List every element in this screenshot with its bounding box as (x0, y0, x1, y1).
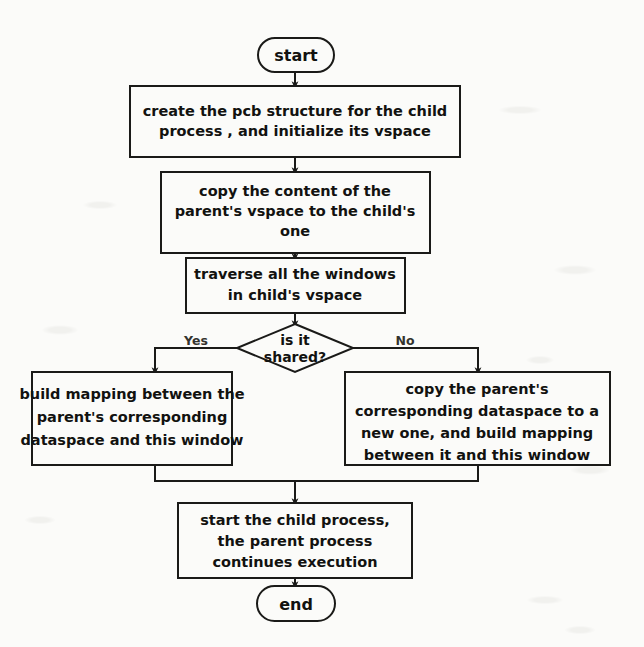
node-start-label: start (274, 46, 318, 65)
node-copy-dataspace-line-1: copy the parent's (405, 381, 548, 397)
node-copy-dataspace: copy the parent's corresponding dataspac… (345, 372, 610, 465)
connector-no-to-copy-dataspace (353, 348, 478, 371)
node-build-mapping-line-2: parent's corresponding (37, 409, 228, 425)
connector-build-mapping-to-merge (155, 465, 295, 481)
node-end: end (257, 586, 335, 621)
node-build-mapping: build mapping between the parent's corre… (19, 372, 244, 465)
node-start-child: start the child process, the parent proc… (178, 503, 412, 578)
node-start: start (258, 38, 334, 72)
node-start-child-line-3: continues execution (212, 554, 377, 570)
node-traverse-windows: traverse all the windows in child's vspa… (186, 258, 405, 313)
node-create-pcb-line-1: create the pcb structure for the child (143, 103, 447, 119)
node-create-pcb-line-2: process , and initialize its vspace (159, 123, 431, 139)
node-is-shared-decision: is it shared? (237, 324, 353, 372)
edge-label-yes: Yes (183, 333, 208, 348)
node-copy-dataspace-line-3: new one, and build mapping (361, 425, 593, 441)
node-copy-vspace-line-1: copy the content of the (199, 183, 391, 199)
flowchart-page: start create the pcb structure for the c… (0, 0, 644, 647)
node-start-child-line-1: start the child process, (200, 512, 390, 528)
node-build-mapping-line-1: build mapping between the (19, 386, 244, 402)
connector-yes-to-build-mapping (155, 348, 237, 371)
node-is-shared-line-1: is it (280, 332, 310, 348)
node-copy-vspace: copy the content of the parent's vspace … (161, 172, 430, 253)
flowchart-canvas: start create the pcb structure for the c… (0, 0, 644, 647)
node-traverse-windows-line-1: traverse all the windows (194, 266, 396, 282)
node-create-pcb: create the pcb structure for the child p… (130, 86, 460, 157)
node-end-label: end (279, 595, 313, 614)
node-copy-dataspace-line-4: between it and this window (364, 447, 590, 463)
node-copy-vspace-line-3: one (280, 223, 310, 239)
node-copy-dataspace-line-2: corresponding dataspace to a (355, 403, 599, 419)
connector-copy-dataspace-to-merge (295, 465, 478, 481)
edge-label-no: No (395, 333, 414, 348)
node-copy-vspace-line-2: parent's vspace to the child's (175, 203, 416, 219)
node-build-mapping-line-3: dataspace and this window (20, 432, 243, 448)
node-is-shared-line-2: shared? (264, 349, 326, 365)
node-start-child-line-2: the parent process (218, 533, 373, 549)
node-traverse-windows-line-2: in child's vspace (228, 287, 363, 303)
